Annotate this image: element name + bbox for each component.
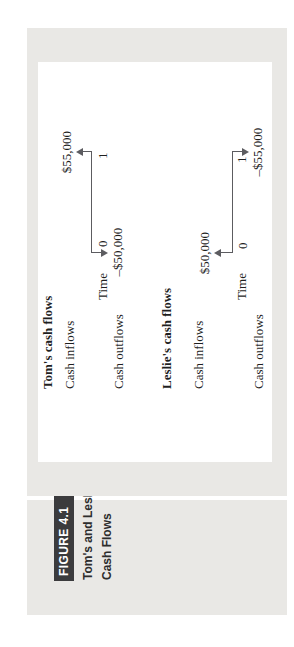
leslie-tick-0: 0 (236, 243, 250, 250)
leslie-time-label: Time (235, 273, 249, 300)
arrow-tail (233, 151, 242, 152)
figure-4-1: FIGURE 4.1 Tom's and Leslie's Cash Flows… (0, 0, 294, 647)
leslie-inflow-amount: $50,000 (198, 213, 212, 293)
leslie-cash-outflows-label: Cash outflows (252, 314, 266, 389)
down-arrowhead-icon (242, 148, 249, 156)
page: FIGURE 4.1 Tom's and Leslie's Cash Flows… (0, 0, 294, 647)
tom-time-label: Time (96, 273, 110, 300)
leslie-outflow-amount: –$55,000 (251, 112, 265, 192)
leslie-section-heading: Leslie's cash flows (160, 288, 174, 389)
leslie-cash-inflows-label: Cash inflows (192, 321, 206, 389)
tom-cash-outflows-label: Cash outflows (112, 314, 126, 389)
tom-timeline (91, 151, 92, 253)
tom-outflow-amount: –$50,000 (111, 212, 125, 292)
leslie-timeline (232, 151, 233, 253)
tom-inflow-amount: $55,000 (60, 112, 74, 192)
tom-cash-inflows-label: Cash inflows (63, 321, 77, 389)
figure-number-label: FIGURE 4.1 (57, 507, 71, 576)
tom-section-heading: Tom's cash flows (41, 296, 55, 389)
leslie-tick-1: 1 (235, 157, 249, 164)
figure-title-panel: FIGURE 4.1 Tom's and Leslie's Cash Flows (27, 500, 287, 615)
arrow-tail (221, 252, 232, 253)
tom-tick-0: 0 (96, 241, 110, 248)
arrow-tail (92, 252, 101, 253)
down-arrowhead-icon (101, 249, 108, 257)
arrow-tail (83, 151, 91, 152)
tom-tick-1: 1 (96, 153, 110, 160)
up-arrowhead-icon (214, 249, 221, 257)
up-arrowhead-icon (76, 148, 83, 156)
